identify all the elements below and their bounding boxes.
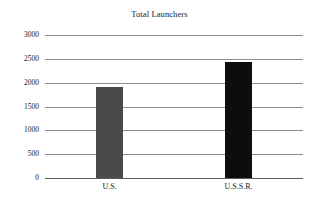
gridline: [45, 107, 303, 108]
y-axis-tick-label: 3000: [5, 31, 39, 39]
y-axis-tick-labels: 050010001500200025003000: [0, 35, 39, 178]
x-axis-tick-labels: U.S.U.S.S.R.: [45, 182, 303, 198]
y-axis-tick-label: 2000: [5, 79, 39, 87]
y-axis-tick-label: 1000: [5, 126, 39, 134]
gridline: [45, 35, 303, 36]
bar-chart: Total Launchers 050010001500200025003000…: [0, 0, 319, 203]
gridline: [45, 130, 303, 131]
bar: [96, 87, 123, 178]
bar: [225, 62, 252, 178]
x-axis-tick-label: U.S.: [102, 182, 116, 191]
y-axis-tick-label: 500: [5, 150, 39, 158]
gridline: [45, 59, 303, 60]
y-axis-tick-label: 1500: [5, 103, 39, 111]
x-axis-tick-label: U.S.S.R.: [224, 182, 252, 191]
gridline: [45, 154, 303, 155]
chart-title: Total Launchers: [0, 9, 319, 19]
y-axis-tick-label: 0: [5, 174, 39, 182]
plot-area: [45, 35, 303, 178]
axis-baseline: [45, 178, 303, 179]
y-axis-tick-label: 2500: [5, 55, 39, 63]
gridline: [45, 83, 303, 84]
